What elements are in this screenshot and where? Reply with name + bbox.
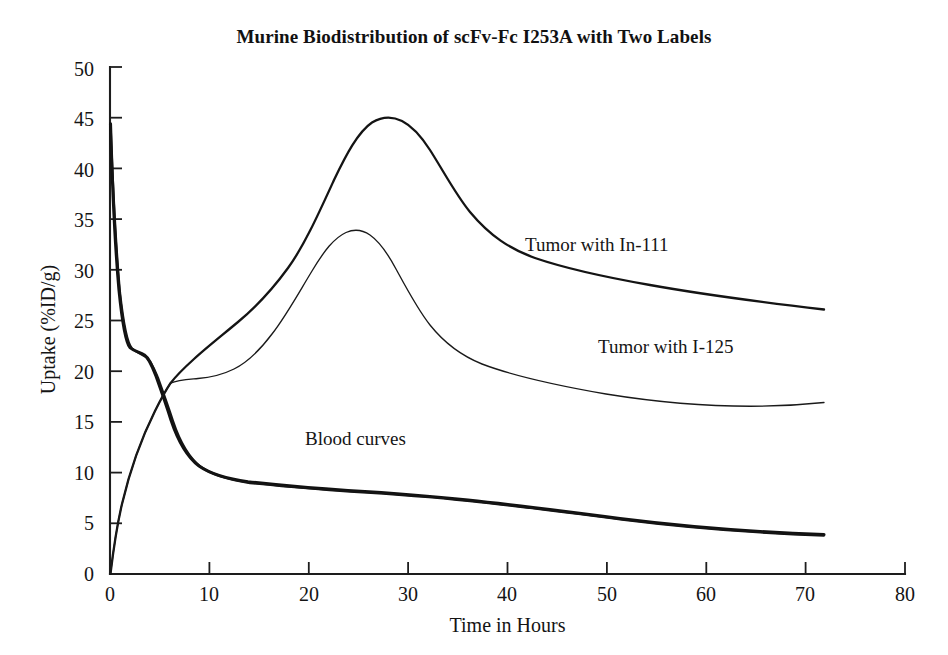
series-label-blood: Blood curves bbox=[305, 428, 406, 450]
series-label-i125: Tumor with I-125 bbox=[598, 336, 733, 358]
x-tick-marks bbox=[110, 562, 905, 574]
chart-figure: Murine Biodistribution of scFv-Fc I253A … bbox=[0, 0, 948, 655]
series-line-blood-a bbox=[111, 124, 825, 535]
series-label-in111: Tumor with In-111 bbox=[525, 234, 669, 256]
plot-area bbox=[0, 0, 948, 655]
series-line-i125 bbox=[111, 230, 825, 573]
